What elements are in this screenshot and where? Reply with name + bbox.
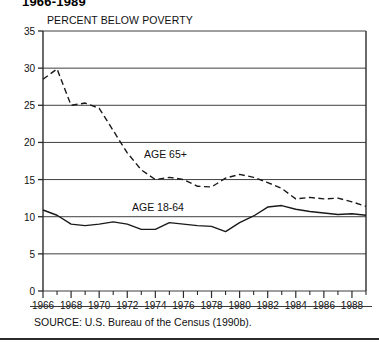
series-line-age-18-64 <box>43 206 366 232</box>
footer-divider-bottom <box>0 338 379 340</box>
y-tick-label-5: 5 <box>5 248 35 259</box>
source-note: SOURCE: U.S. Bureau of the Census (1990b… <box>34 316 252 328</box>
y-tick-marks <box>38 31 43 291</box>
footer-divider-top <box>30 306 372 307</box>
gridlines <box>43 31 366 291</box>
series-label-age-65-plus: AGE 65+ <box>144 148 187 160</box>
series-line-age-65 <box>43 69 366 206</box>
y-tick-label-0: 0 <box>5 286 35 297</box>
y-axis-title: PERCENT BELOW POVERTY <box>47 14 193 26</box>
chart-title: 1966-1989 <box>22 0 86 9</box>
y-tick-label-10: 10 <box>5 211 35 222</box>
y-tick-label-20: 20 <box>5 137 35 148</box>
plot-svg <box>43 31 366 291</box>
series-lines <box>43 69 366 232</box>
axis-frame <box>43 31 366 291</box>
x-tick-marks <box>43 291 366 298</box>
series-label-age-18-64: AGE 18-64 <box>132 201 184 213</box>
y-tick-label-35: 35 <box>5 26 35 37</box>
y-tick-label-25: 25 <box>5 100 35 111</box>
plot-area <box>43 31 366 291</box>
y-tick-label-15: 15 <box>5 174 35 185</box>
y-tick-label-30: 30 <box>5 63 35 74</box>
poverty-rate-chart-figure: 1966-1989 PERCENT BELOW POVERTY 05101520… <box>0 0 379 342</box>
